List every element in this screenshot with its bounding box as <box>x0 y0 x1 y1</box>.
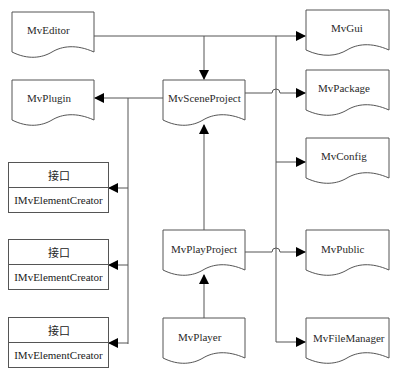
interface-box: 接口 IMvElementCreator <box>8 162 109 213</box>
module-mvconfig: MvConfig <box>321 150 367 162</box>
module-mvplugin: MvPlugin <box>27 92 71 104</box>
module-mvplayer: MvPlayer <box>178 331 221 343</box>
interface-name: IMvElementCreator <box>9 188 108 213</box>
module-mvsceneproject: MvSceneProject <box>168 92 241 104</box>
interface-box: 接口 IMvElementCreator <box>8 317 109 368</box>
interface-name: IMvElementCreator <box>9 343 108 368</box>
module-mveditor: MvEditor <box>27 24 70 36</box>
module-mvpackage: MvPackage <box>318 82 370 94</box>
interface-stereotype: 接口 <box>9 240 108 265</box>
interface-box: 接口 IMvElementCreator <box>8 239 109 290</box>
interface-stereotype: 接口 <box>9 163 108 188</box>
interface-name: IMvElementCreator <box>9 265 108 290</box>
module-mvgui: MvGui <box>331 22 363 34</box>
module-mvfilemanager: MvFileManager <box>313 332 384 344</box>
module-mvpublic: MvPublic <box>321 243 364 255</box>
interface-stereotype: 接口 <box>9 318 108 343</box>
edge-scene-package <box>245 89 305 93</box>
edge-play-public <box>245 248 305 252</box>
module-mvplayproject: MvPlayProject <box>171 243 237 255</box>
